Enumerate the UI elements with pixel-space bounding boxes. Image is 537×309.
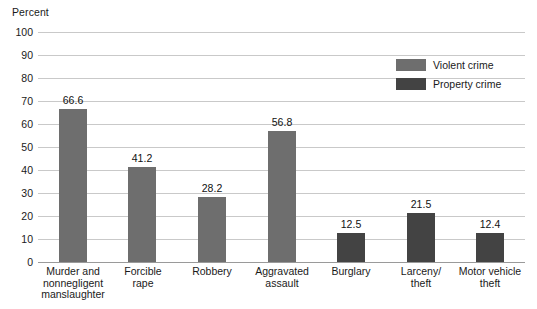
- y-axis-tick-label: 100: [3, 27, 33, 38]
- x-axis-label-line: Forcible: [108, 266, 178, 278]
- bar-value-label: 12.5: [326, 219, 376, 230]
- bar-value-label: 66.6: [48, 95, 98, 106]
- x-axis-category-label: Burglary: [316, 266, 386, 278]
- x-axis-category-label: Larceny/theft: [386, 266, 456, 289]
- y-axis-tick-label: 90: [3, 50, 33, 61]
- y-axis-tick-label: 50: [3, 142, 33, 153]
- x-axis-label-line: assault: [247, 278, 317, 290]
- bar: [337, 233, 365, 262]
- bar-value-label: 56.8: [257, 117, 307, 128]
- axis-baseline: [38, 262, 525, 263]
- gridline: [38, 32, 525, 33]
- bar: [476, 233, 504, 262]
- x-axis-category-label: Motor vehicletheft: [455, 266, 525, 289]
- x-axis-label-line: rape: [108, 278, 178, 290]
- legend-item: Violent crime: [396, 58, 494, 72]
- x-axis-category-label: Robbery: [177, 266, 247, 278]
- y-axis-tick-label: 70: [3, 96, 33, 107]
- bar: [198, 197, 226, 262]
- y-axis-tick-label: 30: [3, 188, 33, 199]
- y-axis-tick-labels: 1009080706050403020100: [0, 32, 33, 262]
- gridline: [38, 55, 525, 56]
- bar: [59, 109, 87, 262]
- legend-item-label: Violent crime: [433, 60, 494, 71]
- x-axis-label-line: Murder and: [38, 266, 108, 278]
- gridline: [38, 101, 525, 102]
- y-axis-tick-label: 60: [3, 119, 33, 130]
- x-axis-label-line: Burglary: [316, 266, 386, 278]
- y-axis-tick-label: 10: [3, 234, 33, 245]
- bar-value-label: 12.4: [465, 219, 515, 230]
- bar-chart: Percent 1009080706050403020100 66.641.22…: [0, 0, 537, 309]
- bar-value-label: 21.5: [396, 199, 446, 210]
- legend-item: Property crime: [396, 77, 501, 91]
- x-axis-category-label: Aggravatedassault: [247, 266, 317, 289]
- x-axis-category-label: Forciblerape: [108, 266, 178, 289]
- chart-legend: Violent crimeProperty crime: [396, 58, 526, 94]
- legend-item-label: Property crime: [433, 79, 501, 90]
- x-axis-label-line: Motor vehicle: [455, 266, 525, 278]
- y-axis-tick-label: 20: [3, 211, 33, 222]
- y-axis-tick-label: 40: [3, 165, 33, 176]
- legend-color-swatch: [396, 78, 426, 90]
- bar: [268, 131, 296, 262]
- y-axis-title: Percent: [12, 6, 49, 18]
- y-axis-tick-label: 0: [3, 257, 33, 268]
- bar: [407, 213, 435, 262]
- bar: [128, 167, 156, 262]
- x-axis-label-line: Larceny/: [386, 266, 456, 278]
- x-axis-category-labels: Murder andnonnegligentmanslaughterForcib…: [38, 266, 525, 309]
- x-axis-label-line: Robbery: [177, 266, 247, 278]
- x-axis-label-line: theft: [455, 278, 525, 290]
- x-axis-label-line: Aggravated: [247, 266, 317, 278]
- bar-value-label: 28.2: [187, 183, 237, 194]
- x-axis-category-label: Murder andnonnegligentmanslaughter: [38, 266, 108, 301]
- y-axis-tick-label: 80: [3, 73, 33, 84]
- bar-value-label: 41.2: [117, 153, 167, 164]
- x-axis-label-line: theft: [386, 278, 456, 290]
- x-axis-label-line: manslaughter: [38, 289, 108, 301]
- legend-color-swatch: [396, 59, 426, 71]
